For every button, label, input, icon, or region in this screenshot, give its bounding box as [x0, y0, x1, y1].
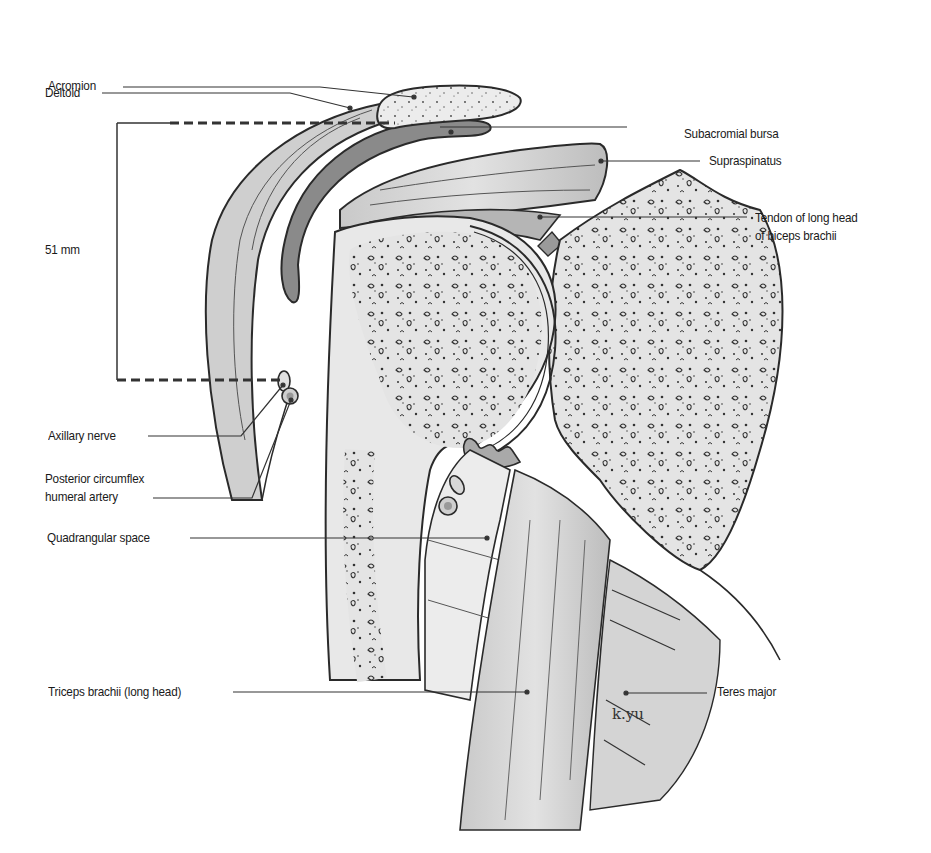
- shoulder-anatomy-illustration: [0, 0, 931, 853]
- teres-major-muscle: [590, 560, 720, 810]
- label-measurement: 51 mm: [45, 242, 80, 258]
- label-triceps-brachii-long-head: Triceps brachii (long head): [48, 684, 181, 700]
- artist-signature: k.yu: [612, 705, 644, 723]
- label-teres-major: Teres major: [717, 684, 776, 700]
- label-posterior-circumflex-humeral-artery: Posterior circumflex humeral artery: [45, 470, 144, 506]
- acromion-bone: [377, 86, 521, 129]
- label-subacromial-bursa: Subacromial bursa: [684, 126, 779, 142]
- label-deltoid: Deltoid: [45, 85, 80, 101]
- label-tendon-long-head-biceps: Tendon of long head of biceps brachii: [755, 209, 858, 245]
- label-quadrangular-space: Quadrangular space: [47, 530, 150, 546]
- label-axillary-nerve: Axillary nerve: [48, 428, 116, 444]
- label-supraspinatus: Supraspinatus: [709, 153, 781, 169]
